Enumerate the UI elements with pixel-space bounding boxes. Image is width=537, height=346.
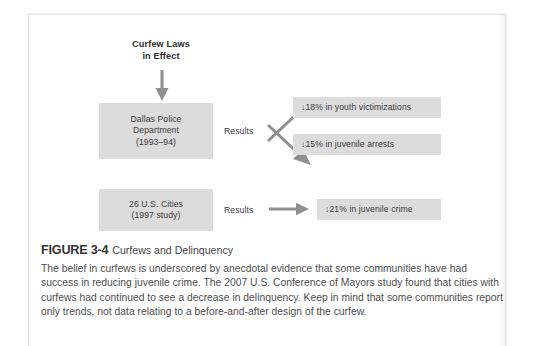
source-box-dallas-line1: Dallas Police [131,114,182,125]
results-label-row1: Results [224,126,253,136]
down-arrow-icon [153,68,171,102]
outcome-box-juvenile-arrests: ↓15% in juvenile arrests [293,134,441,155]
results-label-row2: Results [224,205,253,215]
outcome-text-juvenile-crime: ↓21% in juvenile crime [325,204,413,215]
source-box-dallas-line3: (1993–94) [136,137,176,148]
source-box-26-cities: 26 U.S. Cities (1997 study) [99,189,213,231]
scanned-page-card: Curfew Laws in Effect Dallas Police Depa… [28,14,506,346]
right-arrow-icon [268,201,310,217]
figure-diagram: Curfew Laws in Effect Dallas Police Depa… [29,15,505,233]
outcome-box-youth-victimizations: ↓18% in youth victimizations [293,97,441,118]
caption-title-row: FIGURE 3-4Curfews and Delinquency [41,243,503,257]
caption-body: The belief in curfews is underscored by … [41,262,503,319]
diagram-top-label: Curfew Laws in Effect [101,38,221,63]
outcome-text-juvenile-arrests: ↓15% in juvenile arrests [301,139,394,150]
source-box-26-cities-line1: 26 U.S. Cities [129,199,183,210]
source-box-26-cities-line2: (1997 study) [132,210,181,221]
outcome-text-youth-victimizations: ↓18% in youth victimizations [301,102,411,113]
diagram-top-label-line1: Curfew Laws [101,38,221,50]
outcome-box-juvenile-crime: ↓21% in juvenile crime [317,199,441,220]
source-box-dallas: Dallas Police Department (1993–94) [99,103,213,159]
figure-caption: FIGURE 3-4Curfews and Delinquency The be… [41,243,503,319]
figure-title: Curfews and Delinquency [112,244,233,256]
diagram-top-label-line2: in Effect [101,50,221,62]
figure-number: FIGURE 3-4 [41,243,108,257]
source-box-dallas-line2: Department [133,125,179,136]
page-root: Curfew Laws in Effect Dallas Police Depa… [0,0,537,346]
